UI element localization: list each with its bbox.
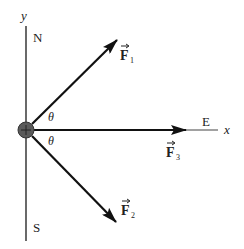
svg-text:2: 2 (131, 211, 135, 220)
force-arrow-f1 (32, 40, 117, 124)
angle-label-upper: θ (48, 110, 54, 124)
south-label: S (33, 220, 40, 235)
east-label: E (202, 114, 210, 129)
svg-text:1: 1 (130, 56, 134, 65)
svg-text:F: F (166, 145, 175, 160)
y-axis-label: y (19, 8, 27, 23)
force-diagram: y N S E x θ θ F 1 F 3 F 2 (0, 0, 244, 249)
force-arrow-f2 (32, 136, 116, 222)
force-label-f1: F 1 (120, 44, 134, 65)
force-label-f3: F 3 (166, 141, 180, 162)
angle-label-lower: θ (48, 134, 54, 148)
particle-icon (18, 122, 34, 138)
x-axis-label: x (223, 122, 230, 137)
svg-text:F: F (121, 203, 130, 218)
force-label-f2: F 2 (121, 199, 135, 220)
north-label: N (33, 30, 43, 45)
svg-text:F: F (120, 48, 129, 63)
svg-text:3: 3 (176, 153, 180, 162)
